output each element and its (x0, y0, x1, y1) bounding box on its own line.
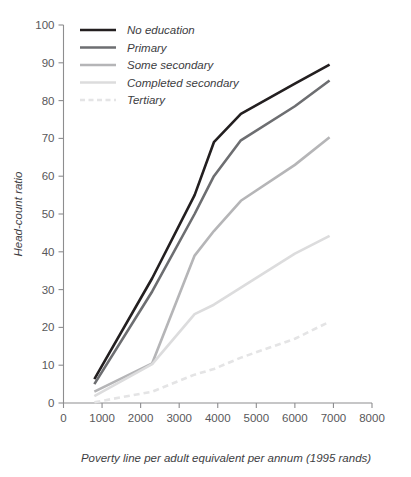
y-tick-label: 10 (42, 359, 55, 371)
legend-label-no-education: No education (127, 24, 195, 36)
series-line-some-secondary (94, 137, 329, 391)
y-tick-label: 40 (42, 246, 55, 258)
x-tick-label: 3000 (166, 412, 192, 424)
x-tick-label: 5000 (244, 412, 270, 424)
chart-container: 0102030405060708090100 01000200030004000… (0, 0, 411, 477)
x-tick-label: 1000 (89, 412, 115, 424)
y-tick-label: 20 (42, 321, 55, 333)
y-tick-label: 30 (42, 284, 55, 296)
chart-legend: No educationPrimarySome secondaryComplet… (80, 24, 240, 106)
x-axis-title: Poverty line per adult equivalent per an… (81, 452, 371, 464)
y-tick-label: 90 (42, 57, 55, 69)
x-tick-label: 8000 (359, 412, 385, 424)
y-tick-label: 80 (42, 95, 55, 107)
series-line-no-education (94, 65, 329, 380)
x-axis-tick-labels: 010002000300040005000600070008000 (60, 412, 385, 424)
x-tick-label: 7000 (321, 412, 347, 424)
legend-label-some-secondary: Some secondary (127, 59, 215, 71)
line-chart: 0102030405060708090100 01000200030004000… (0, 0, 411, 477)
y-axis-tick-labels: 0102030405060708090100 (35, 19, 54, 409)
series-group (94, 65, 329, 403)
x-tick-label: 4000 (205, 412, 231, 424)
x-axis-ticks (64, 403, 373, 408)
y-tick-label: 60 (42, 170, 55, 182)
series-line-tertiary (94, 322, 329, 403)
y-tick-label: 50 (42, 208, 55, 220)
x-tick-label: 0 (60, 412, 66, 424)
y-tick-label: 100 (35, 19, 54, 31)
legend-label-primary: Primary (127, 42, 168, 54)
legend-label-completed-secondary: Completed secondary (127, 77, 240, 89)
y-tick-label: 70 (42, 132, 55, 144)
x-tick-label: 6000 (282, 412, 308, 424)
y-axis-title: Head-count ratio (12, 171, 24, 257)
legend-label-tertiary: Tertiary (127, 94, 166, 106)
y-axis-ticks (59, 25, 64, 403)
x-tick-label: 2000 (128, 412, 154, 424)
y-tick-label: 0 (48, 397, 54, 409)
